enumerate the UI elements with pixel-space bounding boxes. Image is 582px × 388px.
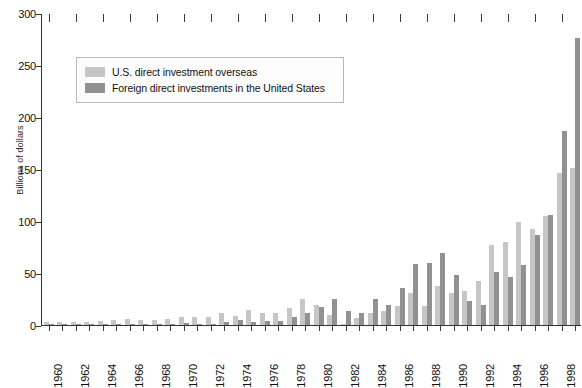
bar-foreign-investment xyxy=(427,263,432,325)
bar-foreign-investment xyxy=(386,305,391,325)
top-tick-mark xyxy=(400,14,401,22)
x-tick-label: 1976 xyxy=(268,364,280,388)
top-tick-mark xyxy=(130,14,131,22)
bar-foreign-investment xyxy=(562,131,567,325)
x-tick-label: 1966 xyxy=(133,364,145,388)
x-axis-tick-labels: 1960196219641966196819701972197419761978… xyxy=(41,330,581,368)
x-tick-label: 1960 xyxy=(52,364,64,388)
top-tick-mark xyxy=(427,14,428,22)
top-tick-mark xyxy=(157,14,158,22)
top-tick-mark xyxy=(346,14,347,22)
bar-group xyxy=(489,14,500,325)
chart-legend: U.S. direct investment overseas Foreign … xyxy=(76,57,344,103)
top-tick-mark xyxy=(535,14,536,22)
bar-foreign-investment xyxy=(454,275,459,325)
x-tick-label: 1982 xyxy=(349,364,361,388)
bar-group xyxy=(476,14,487,325)
bar-group xyxy=(530,14,541,325)
legend-label-us: U.S. direct investment overseas xyxy=(112,66,257,78)
top-tick-mark xyxy=(76,14,77,22)
top-tick-mark xyxy=(319,14,320,22)
legend-label-foreign: Foreign direct investments in the United… xyxy=(112,82,325,94)
x-tick-label: 1972 xyxy=(214,364,226,388)
top-tick-mark xyxy=(238,14,239,22)
bar-foreign-investment xyxy=(292,317,297,325)
bar-group xyxy=(557,14,568,325)
bar-foreign-investment xyxy=(508,277,513,325)
bar-foreign-investment xyxy=(359,313,364,325)
x-tick-label: 1970 xyxy=(187,364,199,388)
bar-foreign-investment xyxy=(521,265,526,325)
bar-group xyxy=(44,14,55,325)
bar-group xyxy=(516,14,527,325)
legend-item-us: U.S. direct investment overseas xyxy=(85,64,335,80)
legend-item-foreign: Foreign direct investments in the United… xyxy=(85,80,335,96)
bar-foreign-investment xyxy=(413,264,418,325)
bar-foreign-investment xyxy=(467,301,472,325)
y-tick-label: 150 xyxy=(6,164,36,176)
y-tick-mark xyxy=(36,326,41,327)
x-tick-label: 1996 xyxy=(538,364,550,388)
bar-group xyxy=(503,14,514,325)
bar-foreign-investment xyxy=(548,215,553,325)
bar-foreign-investment xyxy=(332,299,337,325)
top-tick-mark xyxy=(49,14,50,22)
bar-foreign-investment xyxy=(575,38,580,325)
x-tick-label: 1988 xyxy=(430,364,442,388)
bar-group xyxy=(368,14,379,325)
y-tick-label: 100 xyxy=(6,216,36,228)
bar-group xyxy=(435,14,446,325)
x-tick-label: 1962 xyxy=(79,364,91,388)
bar-foreign-investment xyxy=(535,235,540,325)
bar-group xyxy=(543,14,554,325)
x-tick-label: 1992 xyxy=(484,364,496,388)
bar-foreign-investment xyxy=(346,311,351,325)
bar-group xyxy=(462,14,473,325)
top-tick-mark xyxy=(211,14,212,22)
y-tick-label: 200 xyxy=(6,112,36,124)
x-tick-label: 1980 xyxy=(322,364,334,388)
bar-group xyxy=(408,14,419,325)
bar-foreign-investment xyxy=(440,253,445,325)
top-tick-mark xyxy=(265,14,266,22)
x-tick-label: 1990 xyxy=(457,364,469,388)
bar-group xyxy=(395,14,406,325)
y-tick-label: 0 xyxy=(6,320,36,332)
top-tick-mark xyxy=(481,14,482,22)
bar-foreign-investment xyxy=(373,299,378,325)
bar-foreign-investment xyxy=(400,288,405,325)
top-tick-mark xyxy=(184,14,185,22)
x-tick-label: 1984 xyxy=(376,364,388,388)
x-tick-label: 1968 xyxy=(160,364,172,388)
bar-foreign-investment xyxy=(305,313,310,325)
y-tick-label: 300 xyxy=(6,8,36,20)
legend-swatch-icon-us xyxy=(85,67,105,77)
bar-group xyxy=(57,14,68,325)
bar-foreign-investment xyxy=(494,272,499,325)
x-tick-label: 1994 xyxy=(511,364,523,388)
top-tick-mark xyxy=(373,14,374,22)
top-tick-mark xyxy=(292,14,293,22)
top-tick-mark xyxy=(562,14,563,22)
bar-foreign-investment xyxy=(481,305,486,325)
bar-group xyxy=(354,14,365,325)
x-tick-label: 1986 xyxy=(403,364,415,388)
top-tick-mark xyxy=(103,14,104,22)
top-tick-mark xyxy=(454,14,455,22)
top-tick-mark xyxy=(508,14,509,22)
x-tick-label: 1998 xyxy=(565,364,577,388)
y-tick-label: 50 xyxy=(6,268,36,280)
legend-swatch-icon-foreign xyxy=(85,83,105,93)
bar-group xyxy=(570,14,581,325)
x-tick-label: 1978 xyxy=(295,364,307,388)
y-tick-label: 250 xyxy=(6,60,36,72)
bar-group xyxy=(422,14,433,325)
x-tick-label: 1974 xyxy=(241,364,253,388)
bar-foreign-investment xyxy=(319,307,324,325)
x-tick-label: 1964 xyxy=(106,364,118,388)
y-axis-tick-labels: 300250200150100500 xyxy=(0,0,36,368)
bar-group xyxy=(449,14,460,325)
bar-group xyxy=(381,14,392,325)
